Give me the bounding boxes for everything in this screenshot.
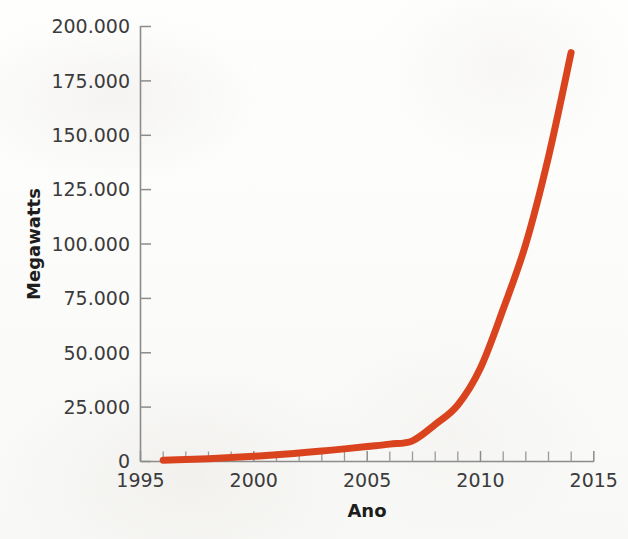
y-tick-label: 125.000 (51, 178, 130, 200)
x-tick-label: 2015 (570, 469, 618, 491)
x-axis-title: Ano (347, 500, 386, 521)
x-tick-label: 2000 (230, 469, 278, 491)
y-axis-ticks (141, 27, 152, 462)
line-chart-plot: 0 25.000 50.000 75.000 100.000 125.000 1… (0, 0, 628, 539)
y-axis-title: Megawatts (23, 188, 44, 300)
chart-figure: 0 25.000 50.000 75.000 100.000 125.000 1… (0, 0, 628, 539)
y-tick-label: 175.000 (51, 70, 130, 92)
y-tick-label: 100.000 (51, 233, 130, 255)
y-tick-label: 50.000 (64, 342, 130, 364)
x-tick-label: 2005 (343, 469, 391, 491)
y-tick-label: 200.000 (51, 15, 130, 37)
y-tick-label: 150.000 (51, 124, 130, 146)
x-tick-label: 1995 (116, 469, 164, 491)
data-series-line (163, 53, 571, 461)
y-tick-label: 75.000 (64, 287, 130, 309)
y-tick-label: 25.000 (64, 396, 130, 418)
x-tick-label: 2010 (456, 469, 504, 491)
